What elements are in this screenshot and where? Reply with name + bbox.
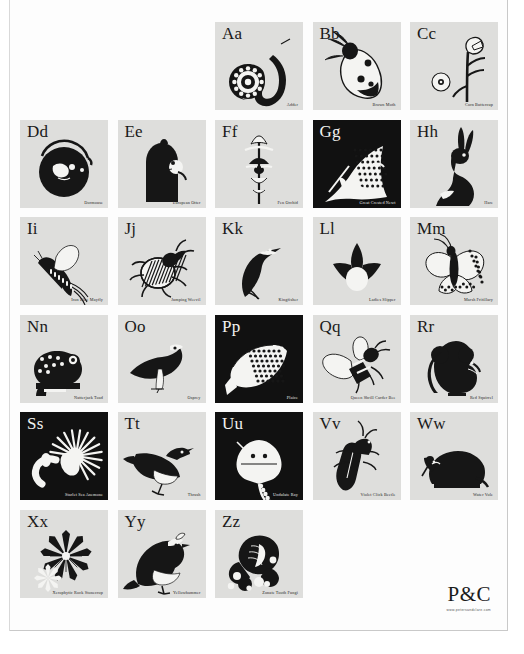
alphabet-tile-n[interactable]: NnNatterjack Toad <box>20 315 108 403</box>
tile-surface: WwWater Vole <box>410 412 498 500</box>
alphabet-tile-w[interactable]: WwWater Vole <box>410 412 498 500</box>
tile-letter: Jj <box>125 219 137 239</box>
grid-cell-empty <box>313 510 401 598</box>
alphabet-tile-a[interactable]: AaAdder <box>215 22 303 110</box>
tile-surface: AaAdder <box>215 22 303 110</box>
tile-surface: BbBrown Moth <box>313 22 401 110</box>
tile-caption: Hare <box>484 200 493 205</box>
tile-caption: Red Squirrel <box>470 395 493 400</box>
tile-caption: Plaice <box>287 395 298 400</box>
tile-surface: RrRed Squirrel <box>410 315 498 403</box>
tile-surface: PpPlaice <box>215 315 303 403</box>
grid-cell-empty <box>20 22 108 110</box>
tile-caption: Queen Shrill Carder Bee <box>351 395 396 400</box>
tile-letter: Ww <box>417 414 446 434</box>
tile-letter: Oo <box>125 317 146 337</box>
tile-letter: Xx <box>27 512 48 532</box>
tile-caption: Iron Blue Mayfly <box>71 297 103 302</box>
alphabet-tile-i[interactable]: IiIron Blue Mayfly <box>20 217 108 305</box>
alphabet-tile-v[interactable]: VvViolet Click Beetle <box>313 412 401 500</box>
tile-surface: FfFen Orchid <box>215 120 303 208</box>
alphabet-tile-e[interactable]: EeEuropean Otter <box>118 120 206 208</box>
alphabet-tile-c[interactable]: CcCorn Buttercup <box>410 22 498 110</box>
tile-caption: Natterjack Toad <box>74 395 103 400</box>
tile-caption: Thrush <box>188 492 201 497</box>
alphabet-tile-m[interactable]: MmMarsh Fritillary <box>410 217 498 305</box>
alphabet-tile-f[interactable]: FfFen Orchid <box>215 120 303 208</box>
alphabet-tile-o[interactable]: OoOsprey <box>118 315 206 403</box>
tile-caption: Ladies Slipper <box>369 297 395 302</box>
tile-letter: Yy <box>125 512 146 532</box>
tile-letter: Kk <box>222 219 243 239</box>
alphabet-tile-u[interactable]: UuUndulate Ray <box>215 412 303 500</box>
tile-surface: MmMarsh Fritillary <box>410 217 498 305</box>
logo-mark: P&C <box>447 584 491 605</box>
tile-letter: Vv <box>320 414 341 434</box>
tile-letter: Tt <box>125 414 141 434</box>
alphabet-tile-l[interactable]: LlLadies Slipper <box>313 217 401 305</box>
alphabet-tile-j[interactable]: JjJumping Weevil <box>118 217 206 305</box>
tile-surface: CcCorn Buttercup <box>410 22 498 110</box>
grid-cell-empty <box>118 22 206 110</box>
tile-caption: Water Vole <box>473 492 493 497</box>
tile-caption: Xerophytic Rock Stonecrop <box>53 590 104 595</box>
tile-letter: Zz <box>222 512 240 532</box>
tile-surface: TtThrush <box>118 412 206 500</box>
tile-letter: Hh <box>417 122 438 142</box>
alphabet-tile-s[interactable]: SsStarlet Sea Anemone <box>20 412 108 500</box>
tile-surface: HhHare <box>410 120 498 208</box>
publisher-logo: P&C www.petersandclare.com <box>447 584 491 612</box>
alphabet-tile-b[interactable]: BbBrown Moth <box>313 22 401 110</box>
tile-letter: Mm <box>417 219 446 239</box>
tile-surface: IiIron Blue Mayfly <box>20 217 108 305</box>
alphabet-tile-t[interactable]: TtThrush <box>118 412 206 500</box>
tile-surface: NnNatterjack Toad <box>20 315 108 403</box>
tile-letter: Aa <box>222 24 242 44</box>
tile-caption: Violet Click Beetle <box>361 492 396 497</box>
tile-caption: Kingfisher <box>279 297 298 302</box>
tile-letter: Ss <box>27 414 43 434</box>
tile-letter: Dd <box>27 122 48 142</box>
alphabet-tile-y[interactable]: YyYellowhammer <box>118 510 206 598</box>
alphabet-tile-x[interactable]: XxXerophytic Rock Stonecrop <box>20 510 108 598</box>
tile-surface: GgGreat Crested Newt <box>313 120 401 208</box>
alphabet-grid: AaAdder BbBrown Moth CcCorn Buttercup Dd… <box>20 22 502 607</box>
tile-caption: Fen Orchid <box>278 200 298 205</box>
tile-caption: Dormouse <box>84 200 103 205</box>
tile-caption: Yellowhammer <box>173 590 200 595</box>
alphabet-tile-p[interactable]: PpPlaice <box>215 315 303 403</box>
tile-caption: Corn Buttercup <box>465 102 493 107</box>
tile-caption: Starlet Sea Anemone <box>65 492 103 497</box>
tile-surface: YyYellowhammer <box>118 510 206 598</box>
tile-surface: JjJumping Weevil <box>118 217 206 305</box>
tile-surface: DdDormouse <box>20 120 108 208</box>
tile-caption: Zonate Tooth Fungi <box>262 590 298 595</box>
tile-surface: EeEuropean Otter <box>118 120 206 208</box>
tile-surface: UuUndulate Ray <box>215 412 303 500</box>
tile-surface: SsStarlet Sea Anemone <box>20 412 108 500</box>
alphabet-tile-z[interactable]: ZzZonate Tooth Fungi <box>215 510 303 598</box>
alphabet-tile-d[interactable]: DdDormouse <box>20 120 108 208</box>
tile-caption: Marsh Fritillary <box>464 297 493 302</box>
alphabet-tile-g[interactable]: GgGreat Crested Newt <box>313 120 401 208</box>
tile-letter: Gg <box>320 122 341 142</box>
tile-surface: LlLadies Slipper <box>313 217 401 305</box>
tile-surface: ZzZonate Tooth Fungi <box>215 510 303 598</box>
tile-letter: Nn <box>27 317 48 337</box>
tile-letter: Qq <box>320 317 341 337</box>
poster-page: AaAdder BbBrown Moth CcCorn Buttercup Dd… <box>0 0 524 654</box>
tile-letter: Uu <box>222 414 243 434</box>
tile-letter: Ll <box>320 219 336 239</box>
tile-surface: QqQueen Shrill Carder Bee <box>313 315 401 403</box>
alphabet-tile-r[interactable]: RrRed Squirrel <box>410 315 498 403</box>
alphabet-tile-k[interactable]: KkKingfisher <box>215 217 303 305</box>
tile-caption: Great Crested Newt <box>360 200 396 205</box>
tile-letter: Bb <box>320 24 340 44</box>
alphabet-tile-h[interactable]: HhHare <box>410 120 498 208</box>
tile-letter: Ee <box>125 122 143 142</box>
tile-letter: Ii <box>27 219 38 239</box>
tile-surface: OoOsprey <box>118 315 206 403</box>
tile-letter: Pp <box>222 317 240 337</box>
alphabet-tile-q[interactable]: QqQueen Shrill Carder Bee <box>313 315 401 403</box>
poster-sheet: AaAdder BbBrown Moth CcCorn Buttercup Dd… <box>10 0 508 631</box>
